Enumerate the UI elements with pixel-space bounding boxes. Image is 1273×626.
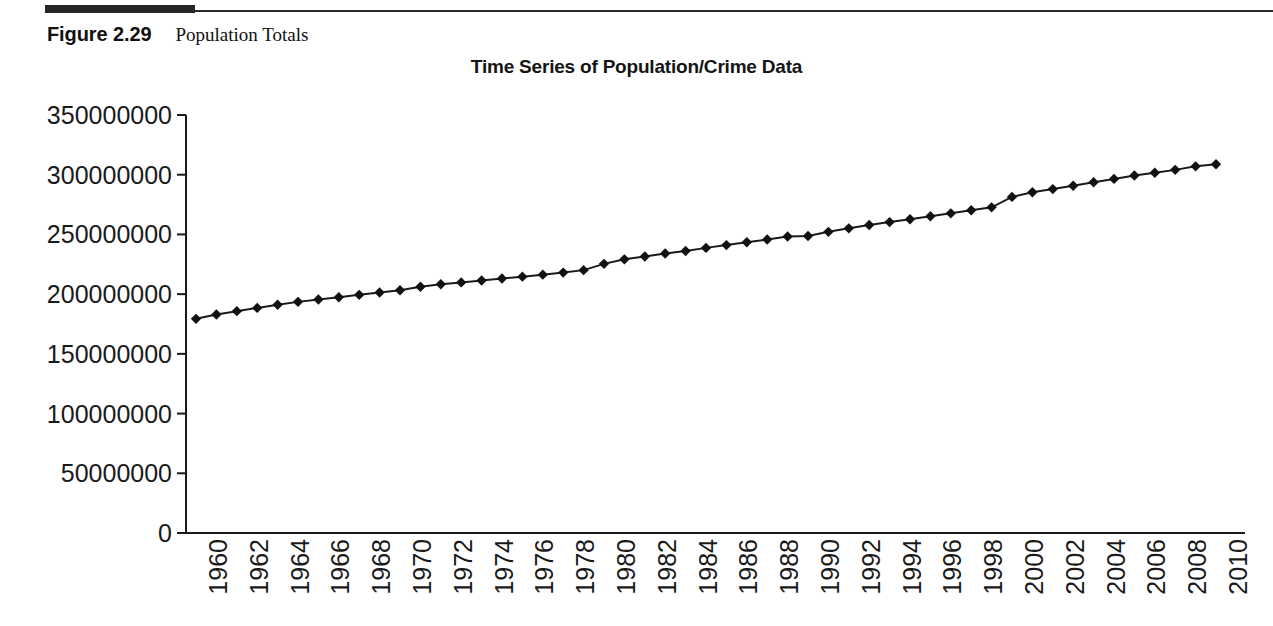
x-axis-tick-label: 2006	[1144, 539, 1169, 595]
x-axis-tick-label: 2004	[1104, 539, 1129, 595]
x-axis-tick-label: 1976	[532, 539, 557, 595]
x-axis-tick-label: 1966	[328, 539, 353, 595]
x-axis-tick-label: 1996	[940, 539, 965, 595]
x-axis-tick-label: 1974	[492, 539, 517, 595]
x-axis-tick-label: 1992	[859, 539, 884, 595]
x-axis-tick-label: 1988	[777, 539, 802, 595]
x-axis-tick-label: 2008	[1185, 539, 1210, 595]
x-axis-tick-label: 1998	[981, 539, 1006, 595]
x-axis-tick-label: 1990	[818, 539, 843, 595]
x-axis-tick-label: 2010	[1226, 539, 1251, 595]
x-axis-tick-label: 1968	[369, 539, 394, 595]
x-axis-labels: 1960196219641966196819701972197419761978…	[0, 0, 1273, 626]
x-axis-tick-label: 1984	[696, 539, 721, 595]
x-axis-tick-label: 1994	[900, 539, 925, 595]
x-axis-tick-label: 2000	[1022, 539, 1047, 595]
x-axis-tick-label: 1964	[288, 539, 313, 595]
chart-container: Time Series of Population/Crime Data 350…	[0, 0, 1273, 626]
x-axis-tick-label: 1970	[410, 539, 435, 595]
x-axis-tick-label: 1982	[655, 539, 680, 595]
x-axis-tick-label: 1986	[736, 539, 761, 595]
x-axis-tick-label: 1960	[206, 539, 231, 595]
x-axis-tick-label: 1980	[614, 539, 639, 595]
x-axis-tick-label: 2002	[1063, 539, 1088, 595]
x-axis-tick-label: 1978	[573, 539, 598, 595]
x-axis-tick-label: 1972	[451, 539, 476, 595]
x-axis-tick-label: 1962	[247, 539, 272, 595]
